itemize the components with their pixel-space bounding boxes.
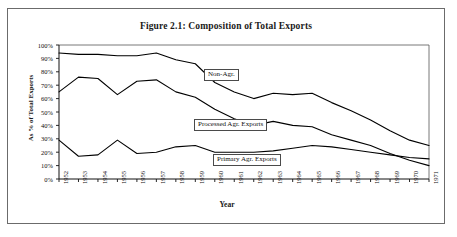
series-label-processed-agr-exports: Processed Agr. Exports — [194, 119, 267, 131]
series-label-non-agr: Non-Agr. — [204, 69, 239, 81]
series-group — [59, 53, 429, 166]
chart-lines — [8, 9, 446, 225]
series-label-primary-agr-exports: Primary Agr. Exports — [213, 154, 281, 166]
figure-frame: Figure 2.1: Composition of Total Exports… — [7, 8, 445, 224]
chart-plot-area: As % of Total Exports Year 0%10%20%30%40… — [8, 9, 446, 225]
